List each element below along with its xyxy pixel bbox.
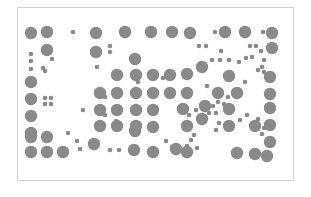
large-dot (25, 131, 37, 143)
small-dot (78, 147, 83, 152)
small-dot (161, 76, 166, 81)
small-dot (214, 111, 219, 116)
large-dot (130, 87, 142, 99)
small-dot (183, 109, 188, 114)
small-dot (207, 111, 212, 116)
small-dot (103, 113, 108, 118)
large-dot (266, 42, 278, 54)
small-dot (250, 55, 255, 60)
small-dot (50, 57, 55, 62)
small-dot (226, 95, 231, 100)
large-dot (94, 120, 106, 132)
large-dot (41, 26, 53, 38)
small-dot (259, 49, 264, 54)
large-dot (57, 146, 69, 158)
small-dot (210, 58, 215, 63)
small-dot (219, 49, 224, 54)
large-dot (184, 27, 196, 39)
large-dot (145, 26, 157, 38)
small-dot (41, 66, 46, 71)
small-dot (262, 58, 267, 63)
small-dot (245, 113, 250, 118)
large-dot (231, 87, 243, 99)
small-dot (256, 68, 261, 73)
small-dot (117, 148, 122, 153)
large-dot (147, 87, 159, 99)
large-dot (177, 103, 189, 115)
large-dot (147, 104, 159, 116)
large-dot (264, 136, 276, 148)
small-dot (238, 118, 243, 123)
small-dot (66, 131, 71, 136)
small-dot (228, 70, 233, 75)
large-dot (199, 100, 211, 112)
large-dot (231, 147, 243, 159)
large-dot (111, 69, 123, 81)
large-dot (239, 26, 251, 38)
small-dot (260, 65, 265, 70)
large-dot (25, 110, 37, 122)
small-dot (216, 100, 221, 105)
small-dot (185, 144, 190, 149)
large-dot (249, 120, 261, 132)
small-dot (192, 133, 197, 138)
small-dot (108, 44, 113, 49)
large-dot (41, 131, 53, 143)
large-dot (249, 148, 261, 160)
large-dot (130, 69, 142, 81)
dot-pattern (0, 0, 311, 197)
large-dot (90, 27, 102, 39)
small-dot (217, 121, 222, 126)
large-dot (129, 53, 141, 65)
large-dot (223, 120, 235, 132)
large-dot (196, 113, 208, 125)
small-dot (49, 102, 54, 107)
large-dot (129, 125, 141, 137)
small-dot (227, 58, 232, 63)
large-dot (25, 146, 37, 158)
small-dot (29, 52, 34, 57)
small-dot (256, 117, 261, 122)
large-dot (164, 87, 176, 99)
small-dot (254, 44, 259, 49)
small-dot (260, 132, 265, 137)
small-dot (43, 96, 48, 101)
small-dot (222, 102, 227, 107)
small-dot (243, 80, 248, 85)
small-dot (194, 108, 199, 113)
large-dot (147, 146, 159, 158)
small-dot (81, 108, 86, 113)
large-dot (25, 76, 37, 88)
small-dot (205, 84, 210, 89)
small-dot (204, 44, 209, 49)
small-dot (29, 67, 34, 72)
small-dot (214, 128, 219, 133)
large-dot (164, 69, 176, 81)
large-dot (88, 138, 100, 150)
small-dot (75, 139, 80, 144)
large-dot (261, 150, 273, 162)
large-dot (111, 104, 123, 116)
small-dot (29, 59, 34, 64)
small-dot (136, 80, 141, 85)
large-dot (111, 87, 123, 99)
large-dot (128, 144, 140, 156)
large-dot (25, 93, 37, 105)
small-dot (187, 113, 192, 118)
small-dot (108, 50, 113, 55)
small-dot (197, 44, 202, 49)
large-dot (147, 69, 159, 81)
small-dot (218, 58, 223, 63)
large-dot (41, 44, 53, 56)
small-dot (262, 70, 267, 75)
large-dot (264, 102, 276, 114)
large-dot (219, 26, 231, 38)
large-dot (181, 87, 193, 99)
small-dot (189, 138, 194, 143)
large-dot (196, 61, 208, 73)
small-dot (195, 146, 200, 151)
large-dot (212, 87, 224, 99)
large-dot (41, 146, 53, 158)
small-dot (237, 60, 242, 65)
small-dot (164, 139, 169, 144)
